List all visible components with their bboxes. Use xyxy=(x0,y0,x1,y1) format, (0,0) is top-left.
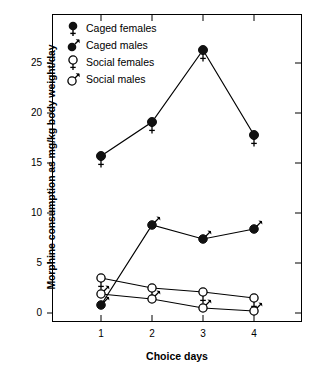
x-tick-label-4: 4 xyxy=(244,329,264,339)
y-axis-title: Morphine consumption as mg/kg body weigh… xyxy=(45,17,57,317)
filled-circle-female-icon xyxy=(66,20,86,37)
open-circle-female-icon xyxy=(66,54,86,71)
y-tick-label-25: 25 xyxy=(16,58,42,68)
legend-item-caged-females: Caged females xyxy=(66,20,157,37)
y-tick-label-10: 10 xyxy=(16,208,42,218)
legend-label-caged-females: Caged females xyxy=(86,23,157,34)
legend-label-social-males: Social males xyxy=(86,74,146,85)
y-tick-label-20: 20 xyxy=(16,108,42,118)
x-tick-label-1: 1 xyxy=(91,329,111,339)
y-tick-label-5: 5 xyxy=(16,258,42,268)
legend-item-social-females: Social females xyxy=(66,54,157,71)
x-axis-title: Choice days xyxy=(52,350,302,362)
legend-label-social-females: Social females xyxy=(86,57,154,68)
legend-item-caged-males: Caged males xyxy=(66,37,157,54)
y-tick-label-15: 15 xyxy=(16,158,42,168)
series-line-caged-males xyxy=(101,225,254,305)
chart-legend: Caged females Caged males Social fem xyxy=(66,20,157,88)
x-axis-ticks xyxy=(101,315,254,321)
x-tick-label-3: 3 xyxy=(193,329,213,339)
figure-container: 25 20 15 10 5 0 1 2 3 4 Morphine consump… xyxy=(0,0,315,375)
filled-circle-male-icon xyxy=(66,37,86,54)
legend-label-caged-males: Caged males xyxy=(86,40,148,51)
open-circle-male-icon xyxy=(66,71,86,88)
series-line-social-females xyxy=(101,278,254,298)
y-axis-ticks-right xyxy=(295,63,301,313)
series-line-social-males xyxy=(101,294,254,311)
marker-social-females xyxy=(97,274,258,310)
x-tick-label-2: 2 xyxy=(142,329,162,339)
marker-caged-males xyxy=(97,217,263,310)
y-tick-label-0: 0 xyxy=(16,308,42,318)
legend-item-social-males: Social males xyxy=(66,71,157,88)
